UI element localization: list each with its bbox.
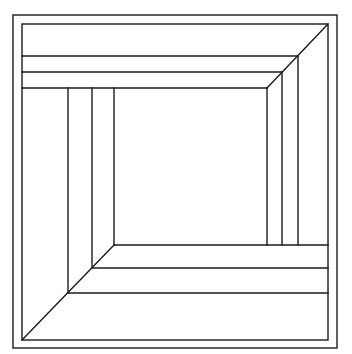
right-bands (267, 56, 298, 245)
left-bands (68, 88, 114, 293)
nested-frames-drawing (0, 0, 352, 354)
top-bands (22, 56, 298, 88)
